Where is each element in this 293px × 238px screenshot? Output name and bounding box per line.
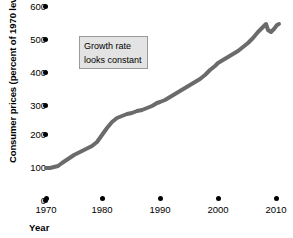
annotation-box: Growth rate looks constant	[79, 36, 148, 69]
annotation-line-2: looks constant	[84, 53, 147, 67]
chart-figure: Consumer prices (percent of 1970 level) …	[0, 0, 293, 238]
annotation-line-1: Growth rate	[84, 39, 147, 53]
